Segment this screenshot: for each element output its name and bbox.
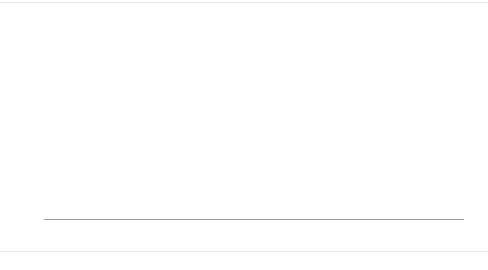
scan-rule-top	[0, 2, 488, 3]
plot-area	[44, 24, 464, 220]
series-layer	[44, 24, 464, 220]
scan-rule-bottom	[0, 251, 488, 252]
line-chart	[0, 0, 488, 270]
